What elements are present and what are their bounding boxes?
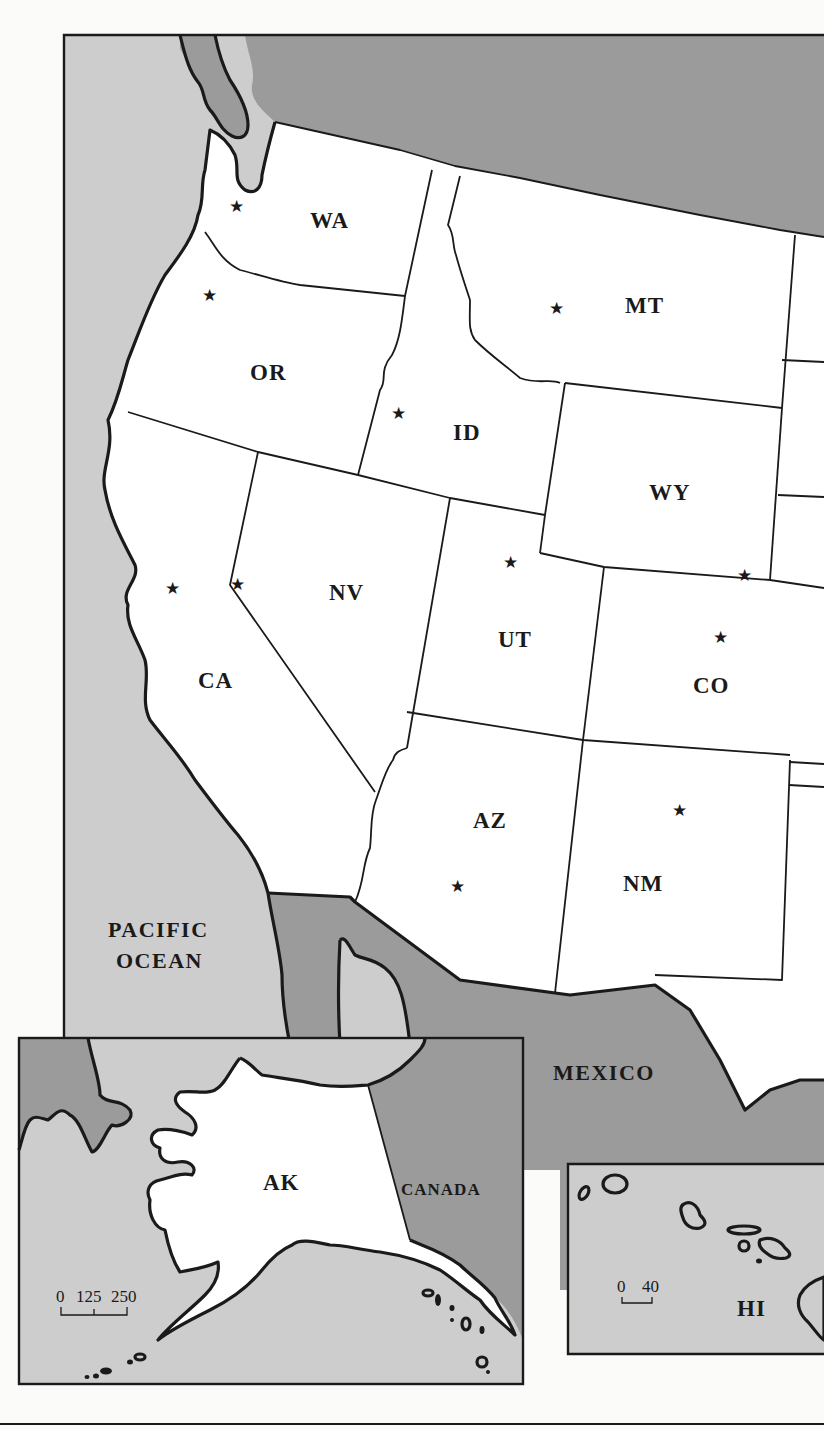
state-label-ut: UT	[498, 627, 532, 652]
state-label-nm: NM	[623, 871, 663, 896]
capital-star-icon: ★	[391, 404, 406, 423]
hawaii-inset: HI 0 40	[568, 1164, 824, 1354]
svg-text:125: 125	[76, 1287, 102, 1306]
ocean-label-line2: OCEAN	[116, 948, 203, 973]
alaska-inset: AK CANADA 0 125 250	[19, 1038, 523, 1384]
svg-text:0: 0	[617, 1277, 626, 1296]
state-label-hi: HI	[737, 1296, 766, 1321]
capital-star-icon: ★	[165, 579, 180, 598]
state-label-wa: WA	[310, 208, 349, 233]
mexico-label: MEXICO	[553, 1060, 655, 1085]
svg-text:40: 40	[642, 1277, 659, 1296]
state-label-nv: NV	[329, 580, 364, 605]
svg-text:0: 0	[56, 1287, 65, 1306]
state-label-wy: WY	[649, 480, 691, 505]
state-label-az: AZ	[473, 808, 507, 833]
canada-label: CANADA	[401, 1180, 481, 1199]
state-label-ca: CA	[198, 668, 233, 693]
state-label-mt: MT	[625, 293, 664, 318]
western-us-map: WA OR ID MT WY CA NV UT CO AZ NM ★ ★ ★ ★…	[0, 0, 824, 1430]
state-label-ak: AK	[263, 1170, 300, 1195]
capital-star-icon: ★	[672, 801, 687, 820]
ocean-label: PACIFIC	[108, 917, 209, 942]
capital-star-icon: ★	[503, 553, 518, 572]
state-label-id: ID	[453, 420, 481, 445]
capital-star-icon: ★	[737, 566, 752, 585]
state-label-co: CO	[693, 673, 730, 698]
state-label-or: OR	[250, 360, 287, 385]
svg-text:250: 250	[111, 1287, 137, 1306]
capital-star-icon: ★	[450, 877, 465, 896]
capital-star-icon: ★	[229, 197, 244, 216]
capital-star-icon: ★	[713, 628, 728, 647]
capital-star-icon: ★	[549, 299, 564, 318]
capital-star-icon: ★	[230, 575, 245, 594]
capital-star-icon: ★	[202, 286, 217, 305]
